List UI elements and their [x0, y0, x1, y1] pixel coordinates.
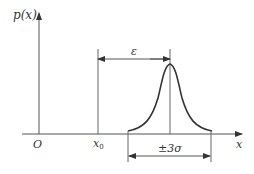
distribution-diagram: p(x) x O x0 ε ±3σ: [0, 0, 254, 174]
origin-label: O: [33, 138, 42, 151]
x-axis-label: x: [236, 138, 243, 151]
x0-label: x0: [93, 137, 104, 151]
epsilon-label: ε: [131, 45, 137, 58]
spread-label: ±3σ: [158, 142, 182, 155]
y-axis-label: p(x): [13, 8, 37, 22]
